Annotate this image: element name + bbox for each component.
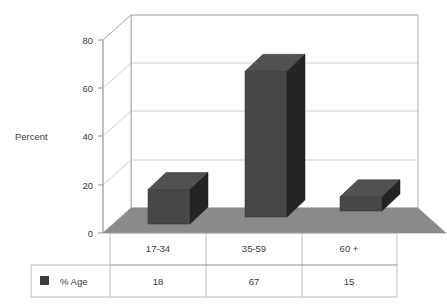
left-wall	[103, 15, 131, 233]
legend-swatch-icon	[40, 276, 49, 285]
category-label-1: 35-59	[242, 243, 266, 254]
table-cell-value-2: 15	[344, 276, 355, 287]
category-label-0: 17-34	[146, 243, 170, 254]
series-name-label: % Age	[60, 276, 87, 287]
ytick-label-0: 0	[88, 228, 93, 239]
bar-side-face	[287, 54, 305, 217]
y-axis-title: Percent	[15, 131, 48, 142]
ytick-label-20: 20	[82, 180, 93, 191]
chart-svg: 80 60 40 20 0 Percent	[0, 0, 447, 308]
category-label-2: 60 +	[340, 243, 359, 254]
bar-front-face	[245, 71, 287, 217]
category-header-row: 17-34 35-59 60 +	[110, 233, 397, 265]
ytick-label-40: 40	[82, 131, 93, 142]
ytick-label-80: 80	[82, 35, 93, 46]
bar-chart-figure: 80 60 40 20 0 Percent	[0, 0, 447, 308]
bar-front-face	[148, 190, 190, 224]
table-cell-value-0: 18	[153, 276, 164, 287]
ytick-label-60: 60	[82, 83, 93, 94]
data-table: % Age 18 67 15	[31, 265, 397, 297]
y-axis: 80 60 40 20 0 Percent	[15, 35, 103, 239]
table-cell-value-1: 67	[249, 276, 260, 287]
bar-front-face	[340, 197, 382, 211]
bar-group-35-59	[245, 54, 305, 217]
